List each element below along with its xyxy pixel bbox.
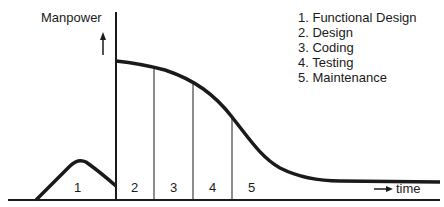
phase-label-1: 1 [74, 180, 81, 195]
phase-label-3: 3 [170, 180, 177, 195]
x-axis-label: time [396, 182, 421, 196]
phase-legend: 1. Functional Design 2. Design 3. Coding… [298, 10, 417, 85]
legend-item: 5. Maintenance [298, 70, 417, 85]
legend-item: 1. Functional Design [298, 10, 417, 25]
phase-label-4: 4 [209, 180, 216, 195]
right-arrow-icon [374, 186, 393, 192]
up-arrow-icon [100, 32, 106, 55]
y-axis-label: Manpower [41, 11, 102, 25]
phase-label-2: 2 [131, 180, 138, 195]
legend-item: 2. Design [298, 25, 417, 40]
legend-item: 4. Testing [298, 55, 417, 70]
legend-item: 3. Coding [298, 40, 417, 55]
phase-label-5: 5 [248, 180, 255, 195]
